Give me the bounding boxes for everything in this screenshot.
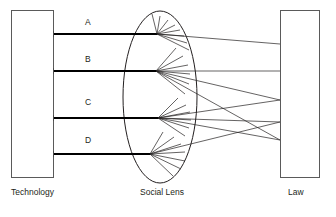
- diagram-canvas: ABCD Technology Social Lens Law: [0, 0, 336, 217]
- fan-ray-d-1: [150, 137, 174, 154]
- lens-ray-fan-group: [150, 14, 191, 176]
- input-beam-group: [54, 31, 159, 157]
- law-block: [281, 11, 320, 178]
- output-ray-d-3: [150, 122, 280, 154]
- social-lens-ellipse: [123, 11, 197, 183]
- lens-diagram: ABCD Technology Social Lens Law: [0, 0, 336, 217]
- output-ray-a-0: [157, 34, 280, 44]
- caption-law: Law: [288, 187, 304, 197]
- technology-block: [12, 11, 54, 178]
- stream-label-group: ABCD: [85, 17, 91, 145]
- stream-label-b: B: [85, 54, 91, 64]
- stream-label-a: A: [85, 17, 91, 27]
- output-ray-c-2: [158, 100, 280, 118]
- output-ray-group: [150, 34, 280, 154]
- fan-ray-d-6: [150, 154, 173, 176]
- output-ray-b-4: [156, 71, 280, 140]
- fan-ray-d-5: [150, 154, 181, 169]
- caption-social-lens: Social Lens: [140, 187, 184, 197]
- stream-label-c: C: [85, 97, 91, 107]
- fan-ray-a-0: [152, 14, 157, 34]
- caption-technology: Technology: [11, 187, 55, 197]
- stream-label-d: D: [85, 135, 91, 145]
- fan-ray-d-4: [150, 154, 185, 161]
